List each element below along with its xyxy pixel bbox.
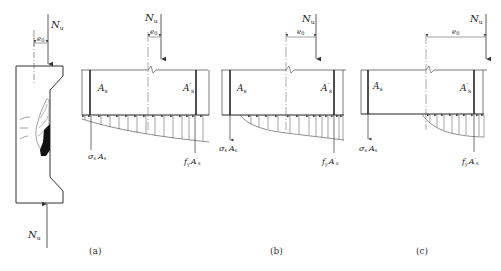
compressive-stress-arrows	[430, 115, 484, 137]
eccentricity-label: e0	[297, 28, 304, 36]
tension-steel-label: As	[372, 81, 383, 92]
compression-steel-force-label: fyA′s	[461, 156, 479, 168]
column-outline	[16, 66, 63, 203]
axial-force-label: Nu	[144, 12, 158, 24]
axial-force-label: Nu	[301, 13, 315, 25]
compression-steel-label: A′s	[320, 82, 332, 94]
diagram-canvas: Nu e0 Nu Nu e0 As A′s	[0, 0, 501, 271]
bottom-force-label: Nu	[27, 229, 41, 241]
compressive-stress-arrows	[85, 116, 203, 141]
tension-steel-force-label: σsAs	[359, 144, 378, 153]
section-c: Nu e0 As A′s σsAs fyA′s	[359, 13, 487, 168]
section-a: Nu e0 As A′s σsAs fyA′s	[81, 12, 209, 168]
axial-force-label: Nu	[469, 13, 483, 25]
crushed-concrete-zone	[20, 99, 50, 156]
compression-steel-label: A′s	[459, 82, 471, 94]
compressive-stress-arrows	[251, 116, 343, 140]
compression-steel-force-label: fyA′s	[321, 156, 339, 168]
eccentricity-label: e0	[452, 28, 459, 36]
tension-steel-force-label: σsAs	[219, 144, 238, 153]
compression-steel-force-label: fyA′s	[183, 156, 201, 168]
section-b: Nu e0 As A′s σsAs fyA′s	[219, 13, 346, 168]
stress-distribution-curve	[422, 114, 484, 137]
tension-steel-label: As	[97, 83, 108, 94]
caption-b: (b)	[270, 246, 283, 256]
stress-distribution-curve	[240, 115, 344, 140]
eccentricity-label: e0	[37, 35, 44, 43]
column-specimen: Nu e0 Nu	[16, 14, 64, 248]
caption-c: (c)	[416, 246, 428, 256]
caption-a: (a)	[89, 246, 101, 256]
tension-steel-force-label: σsAs	[88, 152, 107, 161]
top-force-label: Nu	[50, 19, 64, 31]
compression-steel-label: A′s	[182, 82, 194, 94]
eccentricity-label: e0	[150, 28, 157, 36]
tension-steel-label: As	[236, 83, 247, 94]
